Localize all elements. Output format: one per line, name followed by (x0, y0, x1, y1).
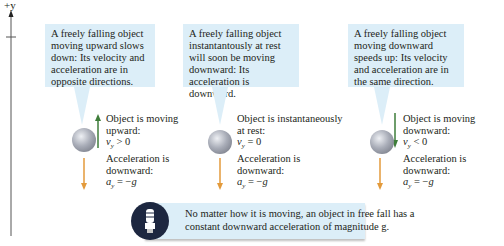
acceleration-value: ay = −g (403, 176, 466, 193)
falling-object-ball (72, 128, 96, 152)
callout-pointer (72, 87, 92, 125)
key-concept-note: No matter how it is moving, an object in… (145, 203, 365, 239)
acceleration-down-arrow (376, 158, 384, 190)
falling-object-ball (208, 130, 232, 154)
falling-object-ball (370, 130, 394, 154)
velocity-value: vy < 0 (403, 136, 475, 153)
callout-pointer (372, 87, 392, 125)
acceleration-down-arrow (216, 158, 224, 190)
velocity-caption: Object is instantaneously at rest: vy = … (237, 113, 343, 153)
acceleration-value: ay = −g (106, 176, 169, 193)
acceleration-caption: Acceleration is downward: ay = −g (106, 153, 169, 193)
acceleration-caption: Acceleration is downward: ay = −g (403, 153, 466, 193)
acceleration-down-arrow (80, 158, 88, 190)
y-axis-label: +y (4, 0, 16, 11)
note-text: No matter how it is moving, an object in… (185, 208, 414, 233)
velocity-value: vy > 0 (106, 136, 178, 153)
velocity-value: vy = 0 (237, 136, 343, 153)
callout-moving-downward: A freely falling object moving downward … (348, 24, 464, 87)
lightbulb-icon (131, 202, 169, 240)
y-axis (2, 4, 22, 242)
velocity-caption: Object is moving downward: vy < 0 (403, 113, 475, 153)
velocity-caption: Object is moving upward: vy > 0 (106, 113, 178, 153)
acceleration-caption: Acceleration is downward: ay = −g (237, 153, 300, 193)
callout-moving-upward: A freely falling object moving upward sl… (45, 24, 155, 87)
acceleration-value: ay = −g (237, 176, 300, 193)
callout-at-rest: A freely falling object instantantously … (183, 24, 299, 87)
callout-pointer (210, 87, 230, 125)
